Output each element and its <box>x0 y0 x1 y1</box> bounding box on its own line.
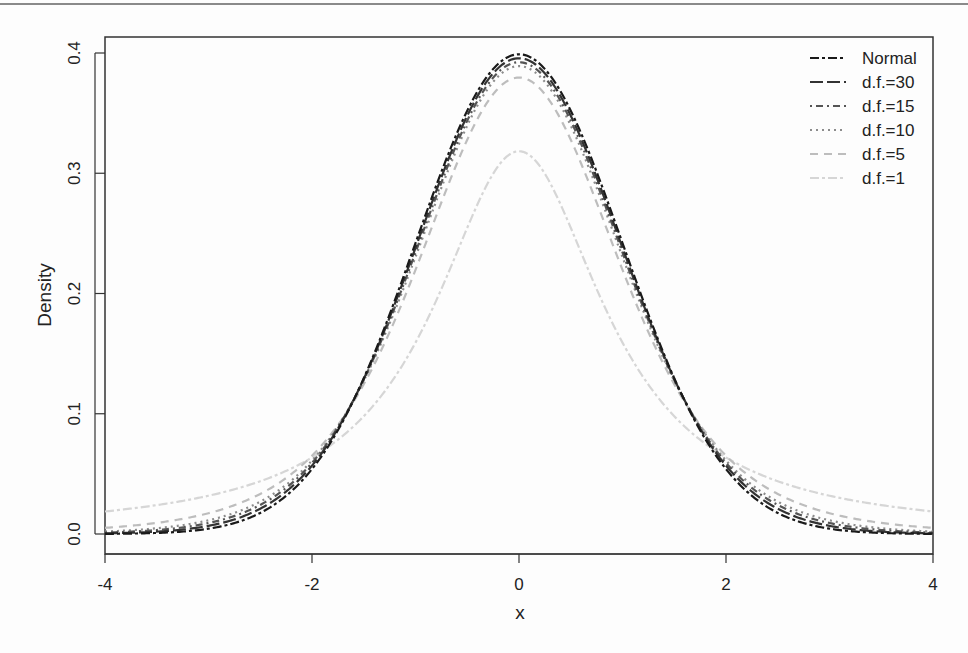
x-tick-label: 4 <box>928 575 937 594</box>
y-tick-label: 0.0 <box>65 522 84 546</box>
legend-item: d.f.=1 <box>810 169 905 188</box>
legend-label: d.f.=15 <box>862 97 914 116</box>
density-curves <box>105 54 933 534</box>
x-axis: -4-2024 <box>97 554 937 594</box>
legend-label: d.f.=30 <box>862 73 914 92</box>
x-tick-label: -4 <box>97 575 112 594</box>
curve-d-f-30 <box>105 58 933 533</box>
x-tick-label: -2 <box>304 575 319 594</box>
curve-d-f-10 <box>105 66 933 531</box>
legend-item: Normal <box>810 49 917 68</box>
legend-label: d.f.=10 <box>862 121 914 140</box>
curve-d-f-5 <box>105 78 933 528</box>
y-tick-label: 0.3 <box>65 161 84 185</box>
y-axis-title: Density <box>34 263 55 327</box>
legend-item: d.f.=30 <box>810 73 914 92</box>
x-tick-label: 0 <box>514 575 523 594</box>
curve-d-f-1 <box>105 151 933 511</box>
curve-d-f-15 <box>105 62 933 532</box>
legend-label: Normal <box>862 49 917 68</box>
plot-frame <box>105 37 933 554</box>
legend-item: d.f.=10 <box>810 121 914 140</box>
legend-label: d.f.=1 <box>862 169 905 188</box>
legend-item: d.f.=15 <box>810 97 914 116</box>
y-tick-label: 0.1 <box>65 402 84 426</box>
density-chart: 0.00.10.20.30.4 -4-2024 x Density Normal… <box>0 0 968 653</box>
legend-label: d.f.=5 <box>862 145 905 164</box>
y-axis: 0.00.10.20.30.4 <box>65 41 105 546</box>
y-tick-label: 0.4 <box>65 41 84 65</box>
y-tick-label: 0.2 <box>65 282 84 306</box>
x-tick-label: 2 <box>721 575 730 594</box>
legend: Normald.f.=30d.f.=15d.f.=10d.f.=5d.f.=1 <box>810 49 917 188</box>
legend-item: d.f.=5 <box>810 145 905 164</box>
curve-normal <box>105 54 933 534</box>
x-axis-title: x <box>515 602 525 623</box>
